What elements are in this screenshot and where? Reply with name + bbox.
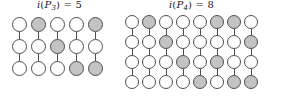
panel-p3-grid [12,17,103,76]
panel-p3-node-2-2 [31,39,46,54]
panel-p4-column-7 [227,15,241,89]
panel-p4-node-5-1 [193,15,207,29]
panel-p3-node-5-2 [88,39,103,54]
panel-p3-edge-4-2 [76,54,77,61]
panel-p4-node-2-1 [142,15,156,29]
panel-p4-node-1-2 [125,35,139,49]
panel-p4-node-8-1 [244,15,258,29]
panel-p4-label-graph-index: 4 [183,4,188,12]
panel-p4: i(P4) = 8 [125,0,258,89]
panel-p3-column-4 [69,17,84,76]
panel-p3-edge-2-1 [38,32,39,39]
panel-p3-node-1-3 [12,61,27,76]
panel-p3-edge-3-2 [57,54,58,61]
panel-p3-edge-1-2 [19,54,20,61]
panel-p4-node-3-2 [159,35,173,49]
panel-p3-edge-1-1 [19,32,20,39]
panel-p4-label-value: 8 [208,0,215,10]
panel-p4-node-3-1 [159,15,173,29]
panel-p3-node-3-2 [50,39,65,54]
panel-p3-node-5-3 [88,61,103,76]
panel-p4-label-equals: = [196,0,205,10]
panel-p4-label: i(P4) = 8 [169,0,214,10]
panel-p4-node-7-1 [227,15,241,29]
panel-p3-edge-4-1 [76,32,77,39]
panel-p3-column-2 [31,17,46,76]
panel-p4-label-close-paren: ) [188,0,192,10]
panel-p3-node-1-1 [12,17,27,32]
panel-p3-label-equals: = [64,0,73,10]
panel-p3: i(P3) = 5 [12,0,103,76]
panel-p4-grid [125,15,258,89]
panel-p3-column-1 [12,17,27,76]
panel-p4-node-6-2 [210,35,224,49]
panel-p3-edge-3-1 [57,32,58,39]
panel-p4-node-1-1 [125,15,139,29]
panel-p4-node-4-2 [176,35,190,49]
panel-p4-node-1-4 [125,75,139,89]
panel-p3-node-2-1 [31,17,46,32]
panel-p4-node-8-3 [244,55,258,69]
panel-p4-node-7-3 [227,55,241,69]
panel-p4-node-5-4 [193,75,207,89]
panel-p3-column-5 [88,17,103,76]
panel-p4-node-2-2 [142,35,156,49]
panel-p4-column-8 [244,15,258,89]
panel-p4-node-5-3 [193,55,207,69]
panel-p3-node-5-1 [88,17,103,32]
panel-p4-node-8-4 [244,75,258,89]
panel-p4-node-6-4 [210,75,224,89]
panel-p4-node-2-4 [142,75,156,89]
panel-p4-node-6-1 [210,15,224,29]
panel-p4-node-3-3 [159,55,173,69]
panel-p4-column-6 [210,15,224,89]
panel-p3-node-3-3 [50,61,65,76]
panel-p4-column-1 [125,15,139,89]
panel-p4-column-2 [142,15,156,89]
panel-p4-node-4-3 [176,55,190,69]
panel-p3-label-value: 5 [76,0,83,10]
panel-p3-label-graph-index: 3 [51,4,56,12]
panel-p4-node-4-1 [176,15,190,29]
panel-p3-label: i(P3) = 5 [37,0,82,10]
panel-p3-node-2-3 [31,61,46,76]
panel-p3-node-1-2 [12,39,27,54]
panel-p3-edge-5-1 [95,32,96,39]
panel-p3-node-4-3 [69,61,84,76]
panel-p4-column-4 [176,15,190,89]
panel-p4-node-7-4 [227,75,241,89]
panel-p3-edge-5-2 [95,54,96,61]
panel-p4-column-5 [193,15,207,89]
panel-p3-node-4-2 [69,39,84,54]
panel-p3-label-close-paren: ) [56,0,60,10]
panel-p4-node-5-2 [193,35,207,49]
panel-p4-node-4-4 [176,75,190,89]
panel-p3-node-4-1 [69,17,84,32]
panel-p4-node-8-2 [244,35,258,49]
panel-p3-node-3-1 [50,17,65,32]
panel-p4-node-6-3 [210,55,224,69]
panel-p3-column-3 [50,17,65,76]
panel-p4-node-7-2 [227,35,241,49]
panel-p4-node-2-3 [142,55,156,69]
panel-p4-node-1-3 [125,55,139,69]
independent-sets-figure: i(P3) = 5 i(P4) = 8 [0,0,287,101]
panel-p4-column-3 [159,15,173,89]
panel-p4-node-3-4 [159,75,173,89]
panel-p3-edge-2-2 [38,54,39,61]
